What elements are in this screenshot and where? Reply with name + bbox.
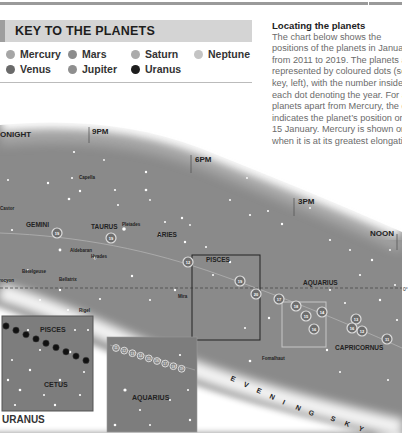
uranus-inset: PISCES CETUS bbox=[2, 316, 93, 411]
constellation-taurus: TAURUS bbox=[91, 223, 118, 230]
time-label-6pm: 6PM bbox=[195, 155, 212, 164]
svg-text:20: 20 bbox=[254, 292, 259, 297]
planet-marker: 20 bbox=[251, 289, 261, 299]
constellation-aquarius: AQUARIUS bbox=[303, 279, 338, 287]
time-label-3pm: 3PM bbox=[298, 197, 315, 206]
planet-marker: 12 bbox=[357, 326, 367, 336]
star-pleiades: Pleiades bbox=[122, 222, 141, 227]
planet-marker: 15 bbox=[301, 311, 311, 321]
inset-label-cetus: CETUS bbox=[44, 381, 68, 388]
svg-text:19: 19 bbox=[180, 367, 184, 371]
star-betelgeuse: Betelgeuse bbox=[22, 269, 47, 274]
star-fomalhaut: Fomalhaut bbox=[262, 356, 285, 361]
svg-text:13: 13 bbox=[131, 352, 135, 356]
planet-marker: 17 bbox=[274, 294, 284, 304]
svg-text:14: 14 bbox=[139, 354, 143, 358]
svg-text:19: 19 bbox=[109, 236, 114, 241]
star-procyon: Procyon bbox=[0, 278, 14, 283]
star-mira: Mira bbox=[178, 294, 188, 299]
constellation-aries: ARIES bbox=[157, 231, 178, 238]
svg-text:18: 18 bbox=[294, 304, 299, 309]
time-label-midnight: ONIGHT bbox=[0, 130, 31, 139]
svg-text:18: 18 bbox=[172, 365, 176, 369]
equator-label: 0° bbox=[403, 286, 408, 292]
planet-marker: 19 bbox=[235, 276, 245, 286]
svg-text:15: 15 bbox=[304, 314, 309, 319]
star-capella: Capella bbox=[79, 175, 96, 180]
svg-text:16: 16 bbox=[312, 327, 317, 332]
sky-chart: 1919121920171815141613161211 PISCES CETU… bbox=[0, 0, 417, 433]
svg-text:16: 16 bbox=[155, 359, 159, 363]
svg-text:13: 13 bbox=[354, 317, 359, 322]
constellation-pisces: PISCES bbox=[206, 256, 231, 263]
svg-text:14: 14 bbox=[320, 310, 325, 315]
planet-marker: 14 bbox=[317, 307, 327, 317]
planet-marker: 11 bbox=[382, 334, 392, 344]
inset-label-aquarius: AQUARIUS bbox=[132, 394, 170, 402]
planet-marker: 18 bbox=[291, 301, 301, 311]
time-label-9pm: 9PM bbox=[92, 127, 109, 136]
star-aldebaran: Aldebaran bbox=[70, 248, 92, 253]
svg-text:17: 17 bbox=[277, 297, 282, 302]
svg-text:19: 19 bbox=[55, 231, 60, 236]
svg-text:15: 15 bbox=[147, 357, 151, 361]
star-bellatrix: Bellatrix bbox=[59, 277, 77, 282]
planet-marker: 19 bbox=[106, 233, 116, 243]
star-hyades: Hyades bbox=[91, 254, 108, 259]
planet-marker: 12 bbox=[183, 257, 193, 267]
uranus-inset-caption: URANUS bbox=[2, 414, 45, 425]
inset-label-pisces: PISCES bbox=[40, 326, 66, 333]
star-rigel: Rigel bbox=[79, 308, 90, 313]
svg-text:16: 16 bbox=[350, 326, 355, 331]
svg-text:11: 11 bbox=[114, 346, 118, 350]
neptune-inset: 111213141516171819 AQUARIUS bbox=[107, 337, 197, 432]
svg-text:17: 17 bbox=[163, 362, 167, 366]
planet-marker: 19 bbox=[52, 228, 62, 238]
svg-text:12: 12 bbox=[122, 349, 126, 353]
time-label-noon: NOON bbox=[370, 229, 394, 238]
planet-marker: 16 bbox=[309, 324, 319, 334]
constellation-capricornus: CAPRICORNUS bbox=[335, 344, 384, 351]
planet-marker: 16 bbox=[347, 323, 357, 333]
svg-text:12: 12 bbox=[360, 329, 365, 334]
svg-text:12: 12 bbox=[186, 260, 191, 265]
svg-text:19: 19 bbox=[238, 279, 243, 284]
star-castor: Castor bbox=[0, 206, 15, 211]
constellation-gemini: GEMINI bbox=[26, 221, 49, 228]
